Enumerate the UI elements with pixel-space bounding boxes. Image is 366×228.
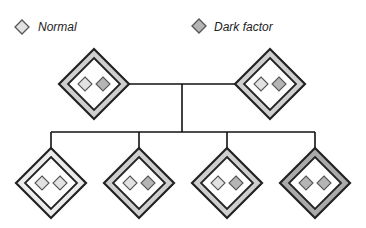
legend-label-dark-factor: Dark factor — [214, 20, 274, 34]
parent-right — [235, 49, 305, 119]
pedigree-diagram: Normal Dark factor — [0, 0, 366, 228]
legend: Normal Dark factor — [15, 19, 274, 34]
legend-item-dark: Dark factor — [192, 19, 274, 34]
parent-left — [59, 49, 129, 119]
normal-diamond-icon — [15, 20, 29, 34]
child-2 — [104, 148, 174, 218]
child-1 — [16, 148, 86, 218]
child-3 — [192, 148, 262, 218]
dark-factor-diamond-icon — [192, 19, 206, 33]
child-4 — [280, 148, 350, 218]
legend-label-normal: Normal — [38, 20, 77, 34]
individuals — [16, 49, 350, 218]
legend-item-normal: Normal — [15, 20, 77, 34]
